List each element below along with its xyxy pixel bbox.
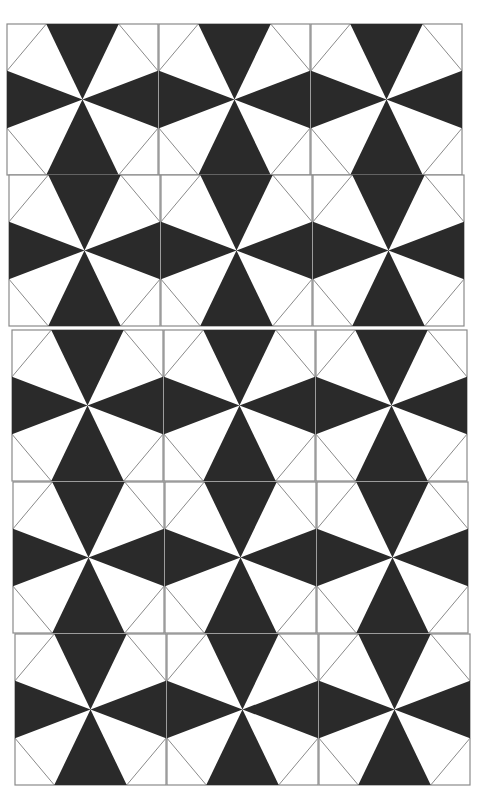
tile bbox=[167, 634, 318, 785]
tile bbox=[12, 330, 163, 481]
tile bbox=[164, 330, 315, 481]
tile bbox=[316, 330, 467, 481]
tile bbox=[7, 24, 158, 175]
tile-pattern bbox=[0, 0, 485, 797]
tile bbox=[13, 482, 164, 633]
tile bbox=[313, 175, 464, 326]
tile bbox=[15, 634, 166, 785]
tile bbox=[159, 24, 310, 175]
tile bbox=[319, 634, 470, 785]
tile bbox=[311, 24, 462, 175]
tile bbox=[161, 175, 312, 326]
tile bbox=[9, 175, 160, 326]
tile bbox=[317, 482, 468, 633]
tile bbox=[165, 482, 316, 633]
